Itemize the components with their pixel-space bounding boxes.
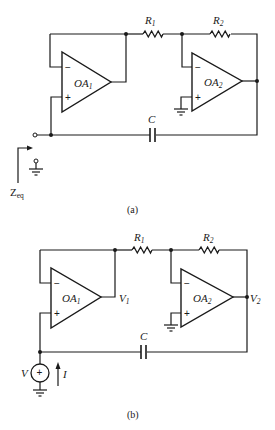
minus-sign: − bbox=[54, 278, 60, 289]
ground-icon bbox=[33, 390, 47, 396]
oa1-inverting-wire bbox=[40, 250, 51, 283]
resistor-r1 bbox=[143, 31, 163, 37]
label-v1: V1 bbox=[119, 292, 129, 306]
junction-dot bbox=[255, 79, 259, 83]
plus-sign: + bbox=[54, 308, 60, 319]
junction-dot bbox=[169, 248, 173, 252]
oa2-inverting-wire bbox=[171, 250, 181, 283]
minus-sign: − bbox=[65, 62, 71, 73]
label-zeq: Zeq bbox=[10, 186, 24, 200]
label-c: C bbox=[140, 330, 148, 342]
label-v2: V2 bbox=[250, 292, 261, 306]
label-source-v: V bbox=[21, 367, 29, 379]
oa2-inverting-wire bbox=[182, 34, 192, 67]
label-r2: R2 bbox=[202, 231, 214, 245]
label-r1: R1 bbox=[144, 14, 155, 28]
label-r2: R2 bbox=[212, 14, 224, 28]
plus-sign: + bbox=[195, 92, 201, 103]
oa1-inverting-wire bbox=[50, 34, 62, 67]
resistor-r2 bbox=[210, 31, 230, 37]
capacitor-c bbox=[141, 345, 146, 359]
panel-a: R1 R2 C OA1 OA2 − + − + Zeq (a) bbox=[10, 14, 259, 216]
junction-dot bbox=[180, 32, 184, 36]
minus-sign: − bbox=[184, 278, 190, 289]
caption-a: (a) bbox=[127, 204, 138, 216]
ground-icon bbox=[174, 109, 188, 115]
circuit-figure: R1 R2 C OA1 OA2 − + − + Zeq (a) bbox=[0, 0, 275, 430]
label-c: C bbox=[148, 113, 156, 125]
label-r1: R1 bbox=[133, 231, 144, 245]
ground-icon bbox=[29, 169, 43, 175]
open-terminal-ground bbox=[34, 159, 38, 163]
capacitor-c bbox=[150, 128, 155, 142]
resistor-r2 bbox=[199, 247, 219, 253]
minus-sign: − bbox=[195, 62, 201, 73]
open-terminal bbox=[33, 133, 37, 137]
junction-dot bbox=[245, 295, 249, 299]
oa1-noninverting-wire bbox=[40, 313, 51, 352]
resistor-r1 bbox=[132, 247, 152, 253]
ground-icon bbox=[164, 325, 178, 331]
label-current-i: I bbox=[62, 368, 68, 380]
impedance-arrow-icon bbox=[18, 146, 33, 184]
plus-sign: + bbox=[65, 92, 71, 103]
junction-dot bbox=[113, 248, 117, 252]
panel-b: + R1 R2 C OA1 OA2 − + − + V1 V2 V I (b) bbox=[21, 231, 261, 421]
junction-dot bbox=[49, 133, 53, 137]
junction-dot bbox=[124, 32, 128, 36]
source-plus-sign: + bbox=[37, 367, 43, 378]
oa1-noninverting-wire bbox=[51, 97, 62, 135]
plus-sign: + bbox=[184, 308, 190, 319]
caption-b: (b) bbox=[127, 409, 139, 421]
current-arrow-icon bbox=[56, 362, 61, 386]
